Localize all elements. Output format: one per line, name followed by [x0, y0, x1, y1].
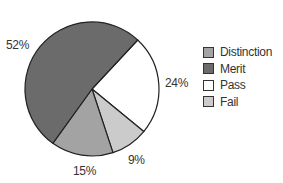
legend-label: Distinction [220, 45, 272, 59]
label-pass: 24% [165, 76, 188, 90]
legend-label: Merit [220, 62, 245, 76]
label-distinction: 15% [73, 164, 96, 178]
label-fail: 9% [128, 153, 145, 167]
legend-label: Fail [220, 95, 238, 109]
legend-item-fail: Fail [203, 94, 272, 111]
legend-item-pass: Pass [203, 77, 272, 94]
legend-swatch-distinction [203, 47, 214, 58]
legend-item-distinction: Distinction [203, 44, 272, 61]
legend-swatch-merit [203, 63, 214, 74]
legend-label: Pass [220, 78, 245, 92]
legend-swatch-pass [203, 80, 214, 91]
legend: Distinction Merit Pass Fail [203, 44, 272, 110]
pie-slices [25, 22, 159, 156]
legend-swatch-fail [203, 96, 214, 107]
label-merit: 52% [6, 38, 29, 52]
legend-item-merit: Merit [203, 61, 272, 78]
